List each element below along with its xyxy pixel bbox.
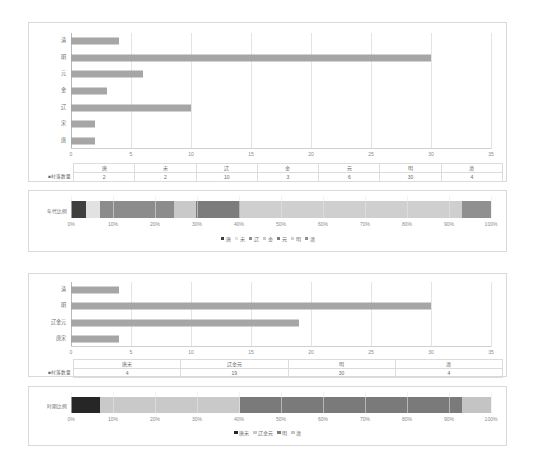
- bar[interactable]: [71, 104, 191, 111]
- legend-item[interactable]: 辽: [249, 235, 259, 242]
- table-cell: 4: [441, 173, 502, 182]
- category-label: 宋: [61, 122, 66, 127]
- table-cell: 4: [74, 369, 181, 378]
- legend-item[interactable]: 明: [277, 429, 287, 436]
- table-column-header: 清: [395, 360, 502, 369]
- bar[interactable]: [71, 319, 299, 326]
- table-corner-cell: [33, 360, 74, 369]
- gridline: [407, 196, 408, 218]
- stacked-chart-1-legend: 唐宋辽金元明清: [29, 235, 506, 242]
- gridline: [155, 196, 156, 218]
- legend-label: 清: [310, 235, 315, 242]
- table-cell: 4: [395, 369, 502, 378]
- stack-segment[interactable]: [462, 201, 491, 218]
- x-tick-label: 15: [248, 349, 254, 355]
- legend-item[interactable]: 宋: [235, 235, 245, 242]
- legend-swatch: [221, 237, 225, 241]
- bar[interactable]: [71, 137, 95, 144]
- gridline: [71, 392, 72, 413]
- gridline: [365, 392, 366, 413]
- table-corner-cell: [33, 164, 74, 173]
- legend-item[interactable]: 唐: [221, 235, 231, 242]
- category-label: 元: [61, 72, 66, 77]
- stack-segment[interactable]: [240, 397, 461, 413]
- legend-item[interactable]: 唐宋: [234, 429, 249, 436]
- gridline: [407, 392, 408, 413]
- legend-item[interactable]: 清: [305, 235, 315, 242]
- gridline: [281, 196, 282, 218]
- bar-chart-2-table: 唐宋辽金元明清■村落数量419304: [33, 359, 503, 378]
- bar-chart-1-plot: 清明元金辽宋唐: [71, 33, 491, 149]
- stack-segment[interactable]: [100, 201, 174, 218]
- legend-swatch: [249, 237, 253, 241]
- legend-label: 辽: [254, 235, 259, 242]
- legend-item[interactable]: 清: [291, 429, 301, 436]
- stack-segment[interactable]: [71, 397, 100, 413]
- table-column-header: 清: [441, 164, 502, 173]
- bar[interactable]: [71, 71, 143, 78]
- bar[interactable]: [71, 88, 107, 95]
- x-tick-label: 5: [130, 349, 133, 355]
- category-label: 清: [61, 39, 66, 44]
- stacked-chart-1-bar: 年代比例: [71, 201, 491, 218]
- x-tick-label: 20%: [150, 221, 160, 227]
- gridline: [191, 282, 192, 347]
- gridline: [323, 196, 324, 218]
- bar[interactable]: [71, 54, 431, 61]
- table-row: ■村落数量221036304: [33, 173, 503, 182]
- x-tick-label: 30%: [192, 416, 202, 422]
- stacked-chart-2-legend: 唐宋辽金元明清: [29, 429, 506, 436]
- legend-label: 明: [296, 235, 301, 242]
- gridline: [155, 392, 156, 413]
- bar[interactable]: [71, 121, 95, 128]
- stack-segment[interactable]: [86, 201, 101, 218]
- table-cell: 2: [74, 173, 135, 182]
- legend-item[interactable]: 明: [291, 235, 301, 242]
- category-label: 辽金元: [51, 320, 66, 325]
- stack-segment[interactable]: [71, 201, 86, 218]
- legend-label: 金: [268, 235, 273, 242]
- category-label: 唐: [61, 138, 66, 143]
- legend-swatch: [235, 237, 239, 241]
- stacked-chart-1-label: 年代比例: [47, 206, 67, 213]
- stack-segment[interactable]: [174, 201, 196, 218]
- legend-swatch: [234, 431, 238, 435]
- table-cell: 19: [181, 369, 288, 378]
- legend-item[interactable]: 辽金元: [253, 429, 273, 436]
- table-cell: 6: [319, 173, 380, 182]
- table-cell: 2: [135, 173, 196, 182]
- stack-segment[interactable]: [462, 397, 491, 413]
- x-tick-label: 50%: [276, 221, 286, 227]
- table-column-header: 金: [257, 164, 318, 173]
- x-tick-label: 25: [368, 151, 374, 157]
- bar[interactable]: [71, 335, 119, 342]
- stack-segment[interactable]: [196, 201, 240, 218]
- bar-chart-2-plot: 清明辽金元唐宋: [71, 282, 491, 347]
- table-cell: 30: [380, 173, 441, 182]
- stack-segment[interactable]: [240, 201, 461, 218]
- x-tick-label: 30%: [192, 221, 202, 227]
- bar[interactable]: [71, 287, 119, 294]
- table-cell: 3: [257, 173, 318, 182]
- bar[interactable]: [71, 303, 431, 310]
- legend-label: 唐宋: [239, 429, 249, 436]
- legend-item[interactable]: 元: [277, 235, 287, 242]
- bar-chart-2-card: 清明辽金元唐宋 05101520253035 唐宋辽金元明清■村落数量41930…: [28, 273, 507, 377]
- x-tick-label: 35: [488, 151, 494, 157]
- stack-segment[interactable]: [100, 397, 240, 413]
- x-tick-label: 35: [488, 349, 494, 355]
- gridline: [191, 33, 192, 149]
- legend-item[interactable]: 金: [263, 235, 273, 242]
- legend-swatch: [291, 431, 295, 435]
- gridline: [323, 392, 324, 413]
- legend-swatch: [291, 237, 295, 241]
- table-cell: 30: [288, 369, 395, 378]
- x-tick-label: 10: [188, 151, 194, 157]
- gridline: [449, 196, 450, 218]
- bar[interactable]: [71, 38, 119, 45]
- gridline: [131, 33, 132, 149]
- stacked-chart-1-card: 年代比例 0%10%20%30%40%50%60%70%80%90%100% 唐…: [28, 190, 507, 252]
- x-tick-label: 100%: [485, 221, 498, 227]
- table-column-header: 明: [380, 164, 441, 173]
- legend-swatch: [263, 237, 267, 241]
